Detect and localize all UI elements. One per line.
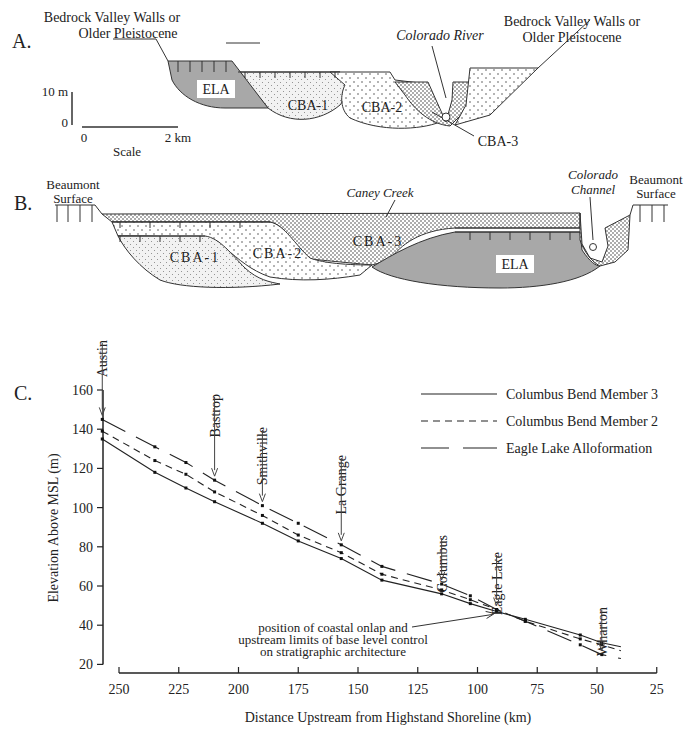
y-tick-label: 80 [79,540,93,555]
data-point [579,643,582,646]
data-point [153,445,156,448]
colorado-river-label: Colorado River [396,28,484,43]
v-scale-top: 10 m [42,84,68,99]
y-tick-label: 40 [79,618,93,633]
v-scale-bottom: 0 [62,115,69,130]
x-tick-label: 200 [228,682,249,697]
location-marker-smithville: Smithville [255,427,270,502]
x-tick-label: 100 [467,682,488,697]
panel-c-label: C. [14,382,32,404]
legend-label: Eagle Lake Alloformation [506,441,652,456]
data-point [524,620,527,623]
x-tick-label: 75 [530,682,544,697]
data-point [261,504,264,507]
unit-label-cba2-a: CBA-2 [362,100,402,115]
caney-creek-label: Caney Creek [346,185,413,200]
data-point [579,637,582,640]
unit-label-cba1-b: CBA-1 [170,250,220,265]
annotation-line: on stratigraphic architecture [260,644,406,659]
unit-label-cba3-a: CBA-3 [478,134,518,149]
chart-annotation: position of coastal onlap andupstream li… [238,611,494,659]
left-surface-line1: Beaumont [46,177,100,192]
data-point [340,557,343,560]
data-point [101,430,104,433]
h-scale-caption: Scale [113,144,141,159]
data-point [297,534,300,537]
unit-label-ela-b: ELA [501,257,529,272]
x-axis-label: Distance Upstream from Highstand Shoreli… [245,710,532,726]
data-point [153,459,156,462]
y-tick-label: 120 [72,461,93,476]
data-point [153,471,156,474]
data-point [261,522,264,525]
h-scale-right: 2 km [165,130,191,145]
y-tick-label: 160 [72,383,93,398]
right-surface-line2: Surface [636,186,676,201]
right-wall-label-line1: Bedrock Valley Walls or [504,14,641,29]
data-point [380,579,383,582]
location-marker-eagle-lake: Eagle Lake [490,552,505,615]
right-wall-label-line2: Older Pleistocene [522,30,621,45]
y-tick-label: 100 [72,501,93,516]
legend-label: Columbus Bend Member 2 [506,414,658,429]
data-point [380,573,383,576]
unit-label-cba2-b: CBA-2 [253,246,303,261]
panel-a-label: A. [12,30,31,52]
data-point [579,634,582,637]
colorado-channel-line1: Colorado [568,167,618,182]
data-point [213,500,216,503]
legend-item: Eagle Lake Alloformation [421,441,652,456]
x-tick-label: 125 [407,682,428,697]
data-point [184,473,187,476]
x-tick-label: 50 [590,682,604,697]
left-surface-line2: Surface [53,191,93,206]
location-marker-bastrop: Bastrop [208,394,223,476]
unit-label-ela-a: ELA [202,82,230,97]
data-point [213,479,216,482]
data-point [340,551,343,554]
data-point [297,539,300,542]
legend-item: Columbus Bend Member 3 [421,387,658,402]
y-tick-label: 60 [79,579,93,594]
x-tick-label: 225 [168,682,189,697]
location-marker-columbus: Columbus [435,535,450,593]
data-point [101,418,104,421]
data-point [469,598,472,601]
panel-c: C. 2040608010012014016025022520017515012… [14,340,664,726]
x-tick-label: 250 [109,682,130,697]
panel-b-label: B. [14,192,32,214]
y-axis-label: Elevation Above MSL (m) [46,453,62,603]
data-point [184,487,187,490]
chart-legend: Columbus Bend Member 3Columbus Bend Memb… [421,387,658,456]
x-tick-label: 25 [650,682,664,697]
unit-label-cba3-b: CBA-3 [353,234,403,249]
data-point [261,514,264,517]
data-point [380,565,383,568]
x-tick-label: 150 [348,682,369,697]
location-marker-la-grange: La Grange [334,455,349,541]
left-wall-label-line1: Bedrock Valley Walls or [44,10,181,25]
right-surface-line1: Beaumont [629,172,683,187]
panel-a: A. Bedrock Valley Walls or Older Pleisto… [12,10,641,159]
legend-item: Columbus Bend Member 2 [421,414,658,429]
location-marker-austin: Austin [95,340,110,415]
data-point [469,594,472,597]
data-point [184,461,187,464]
colorado-channel-line2: Channel [571,182,615,197]
location-marker-wharton: Wharton [595,607,610,656]
series-solid [101,438,621,647]
y-tick-label: 20 [79,657,93,672]
unit-cba2-right-a [455,68,538,125]
series-dashed [101,430,621,651]
data-point [297,522,300,525]
x-tick-label: 175 [288,682,309,697]
data-point [213,490,216,493]
unit-label-cba1-a: CBA-1 [288,98,328,113]
annotation-leader [412,614,493,627]
y-tick-label: 140 [72,422,93,437]
panel-b: B. Beaumont Surface CBA-1 [14,167,683,288]
legend-label: Columbus Bend Member 3 [506,387,658,402]
figure-canvas: A. Bedrock Valley Walls or Older Pleisto… [0,0,687,733]
h-scale-left: 0 [81,130,88,145]
data-point [340,543,343,546]
